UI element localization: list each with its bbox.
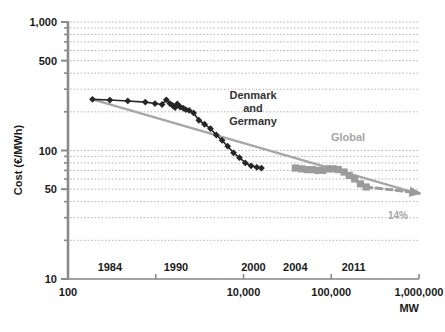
x-axis-tick-label: 100,000: [311, 286, 351, 298]
y-axis-tick-label: 100: [39, 145, 57, 157]
x-axis-tick-label: 10,000: [227, 286, 261, 298]
year-marker-label: 2000: [241, 261, 265, 273]
denmark-germany-label-line2: and: [243, 102, 263, 114]
x-axis-title: MW: [399, 302, 419, 314]
denmark-germany-label-line3: Germany: [229, 115, 278, 127]
year-marker-label: 1990: [164, 261, 188, 273]
year-marker-label: 2011: [342, 261, 366, 273]
learning-rate-label: 14%: [388, 210, 408, 221]
y-axis-tick-label: 1,000: [29, 16, 57, 28]
year-marker-label: 1984: [98, 261, 123, 273]
x-axis-tick-label: 1,000,000: [395, 286, 444, 298]
global-label: Global: [331, 131, 365, 143]
data-point-marker: [292, 164, 299, 171]
experience-curve-chart: 10501005001,000 10010,000100,0001,000,00…: [0, 0, 445, 332]
y-axis-tick-label: 10: [45, 273, 57, 285]
x-axis-tick-label: 100: [59, 286, 77, 298]
chart-canvas: 10501005001,000 10010,000100,0001,000,00…: [0, 0, 445, 332]
y-axis-tick-label: 500: [39, 55, 57, 67]
y-axis-tick-label: 50: [45, 183, 57, 195]
year-marker-label: 2004: [283, 261, 308, 273]
denmark-germany-label-line1: Denmark: [229, 89, 277, 101]
y-axis-title: Cost (€/MWh): [12, 125, 24, 196]
